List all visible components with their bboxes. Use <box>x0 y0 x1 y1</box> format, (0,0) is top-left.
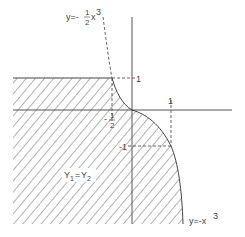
diagram-canvas: y=- 1 2 x 3 1 1 -1 - 1 2 Y 1 = Y 2 y=-x … <box>0 0 245 237</box>
svg-text:1: 1 <box>85 8 90 17</box>
label-lower-curve: y=-x 3 <box>189 211 218 226</box>
svg-text:=: = <box>75 170 80 180</box>
dashed-curve-half-cubic <box>103 17 112 78</box>
tick-label-y-neg-1: -1 <box>119 142 127 152</box>
svg-text:3: 3 <box>96 7 101 17</box>
svg-text:y=-x: y=-x <box>189 216 207 226</box>
svg-text:2: 2 <box>110 121 115 130</box>
label-upper-curve: y=- 1 2 x 3 <box>66 7 101 27</box>
svg-text:y=-: y=- <box>66 12 79 22</box>
label-region: Y 1 = Y 2 <box>62 168 96 182</box>
shaded-region <box>0 70 200 230</box>
svg-text:3: 3 <box>213 211 218 221</box>
tick-label-x-1: 1 <box>168 96 173 106</box>
svg-text:2: 2 <box>87 175 91 182</box>
svg-text:-: - <box>104 114 107 124</box>
tick-label-y-1: 1 <box>136 74 141 84</box>
svg-text:2: 2 <box>85 18 90 27</box>
svg-text:1: 1 <box>70 175 74 182</box>
svg-text:1: 1 <box>110 111 115 120</box>
